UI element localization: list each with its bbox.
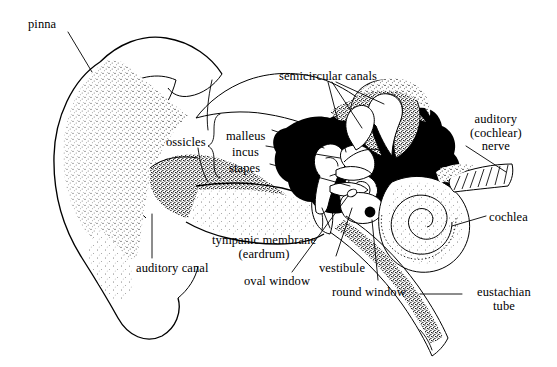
label-eustachian-tube-line2: tube (466, 300, 542, 314)
label-oval-window: oval window (244, 275, 310, 289)
label-malleus-line1: malleus (226, 129, 266, 143)
label-auditory-nerve: auditory (cochlear) nerve (470, 113, 522, 154)
label-cochlea-line1: cochlea (489, 210, 528, 224)
label-oval-window-line1: oval window (244, 274, 310, 288)
label-ossicles-line1: ossicles (166, 135, 206, 149)
label-tympanic-membrane-line2: (eardrum) (196, 248, 332, 262)
label-malleus: malleus (226, 130, 266, 144)
ear-anatomy-diagram: pinna ossicles malleus incus stapes semi… (0, 0, 557, 367)
label-ossicles: ossicles (166, 136, 206, 150)
label-auditory-canal: auditory canal (136, 262, 209, 276)
label-tympanic-membrane-line1: tympanic membrane (196, 234, 332, 248)
label-round-window: round window (332, 286, 406, 300)
label-stapes: stapes (229, 162, 260, 176)
label-incus-line1: incus (232, 145, 259, 159)
label-tympanic-membrane: tympanic membrane (eardrum) (196, 234, 332, 261)
label-round-window-line1: round window (332, 285, 406, 299)
label-auditory-nerve-line1: auditory (470, 113, 522, 127)
label-semicircular-canals: semicircular canals (279, 70, 377, 84)
label-pinna-line1: pinna (28, 17, 56, 31)
label-vestibule-line1: vestibule (319, 261, 365, 275)
label-incus: incus (232, 146, 259, 160)
pinna-structure (50, 37, 310, 339)
label-auditory-nerve-line3: nerve (470, 140, 522, 154)
label-stapes-line1: stapes (229, 161, 260, 175)
label-auditory-nerve-line2: (cochlear) (470, 127, 522, 141)
label-auditory-canal-line1: auditory canal (136, 261, 209, 275)
label-vestibule: vestibule (319, 262, 365, 276)
label-eustachian-tube: eustachian tube (466, 286, 542, 313)
label-eustachian-tube-line1: eustachian (466, 286, 542, 300)
round-window-structure (365, 207, 376, 218)
label-cochlea: cochlea (489, 211, 528, 225)
label-semicircular-canals-line1: semicircular canals (279, 69, 377, 83)
label-pinna: pinna (28, 18, 56, 32)
